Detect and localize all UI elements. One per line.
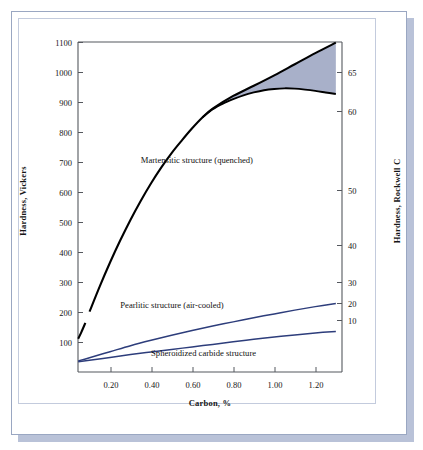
- chart-figure: Hardness, Vickers Hardness, Rockwell C C…: [0, 0, 423, 450]
- right-axis-ticks: [337, 73, 342, 321]
- y-axis-right-tick-label: 40: [348, 241, 374, 251]
- y-axis-left-tick-label: 200: [38, 308, 72, 318]
- x-axis-tick-label: 0.40: [132, 380, 172, 390]
- y-axis-left-tick-label: 700: [38, 158, 72, 168]
- series-annotation-3: Spheroidized carbide structure: [151, 348, 256, 358]
- x-axis-tick-label: 0.60: [173, 380, 213, 390]
- y-axis-right-tick-label: 50: [348, 186, 374, 196]
- x-axis-title: Carbon, %: [160, 398, 260, 408]
- y-axis-right-tick-label: 30: [348, 278, 374, 288]
- y-axis-left-title: Hardness, Vickers: [18, 146, 28, 256]
- series-annotation-2: Pearlitic structure (air-cooled): [120, 300, 223, 310]
- y-axis-right-tick-label: 65: [348, 68, 374, 78]
- x-axis-tick-label: 1.00: [255, 380, 295, 390]
- y-axis-right-tick-label: 20: [348, 299, 374, 309]
- figure-plate: Hardness, Vickers Hardness, Rockwell C C…: [0, 0, 423, 450]
- y-axis-left-tick-label: 900: [38, 98, 72, 108]
- curve-martensite-upper-segment-a: [78, 323, 85, 339]
- y-axis-left-tick-label: 300: [38, 278, 72, 288]
- y-axis-left-tick-label: 100: [38, 338, 72, 348]
- bottom-axis-ticks: [111, 367, 316, 372]
- x-axis-tick-label: 0.80: [214, 380, 254, 390]
- x-axis-tick-label: 1.20: [296, 380, 336, 390]
- y-axis-left-tick-label: 1100: [38, 38, 72, 48]
- y-axis-left-tick-label: 500: [38, 218, 72, 228]
- left-axis-ticks: [78, 43, 83, 343]
- y-axis-right-tick-label: 10: [348, 316, 374, 326]
- x-axis-tick-label: 0.20: [91, 380, 131, 390]
- y-axis-left-tick-label: 600: [38, 188, 72, 198]
- series-annotation-1: Martensitic structure (quenched): [141, 155, 253, 165]
- axis-frame: [78, 42, 342, 372]
- y-axis-left-tick-label: 1000: [38, 68, 72, 78]
- y-axis-right-title: Hardness, Rockwell C: [392, 146, 402, 256]
- y-axis-right-tick-label: 60: [348, 107, 374, 117]
- y-axis-left-tick-label: 800: [38, 128, 72, 138]
- y-axis-left-tick-label: 400: [38, 248, 72, 258]
